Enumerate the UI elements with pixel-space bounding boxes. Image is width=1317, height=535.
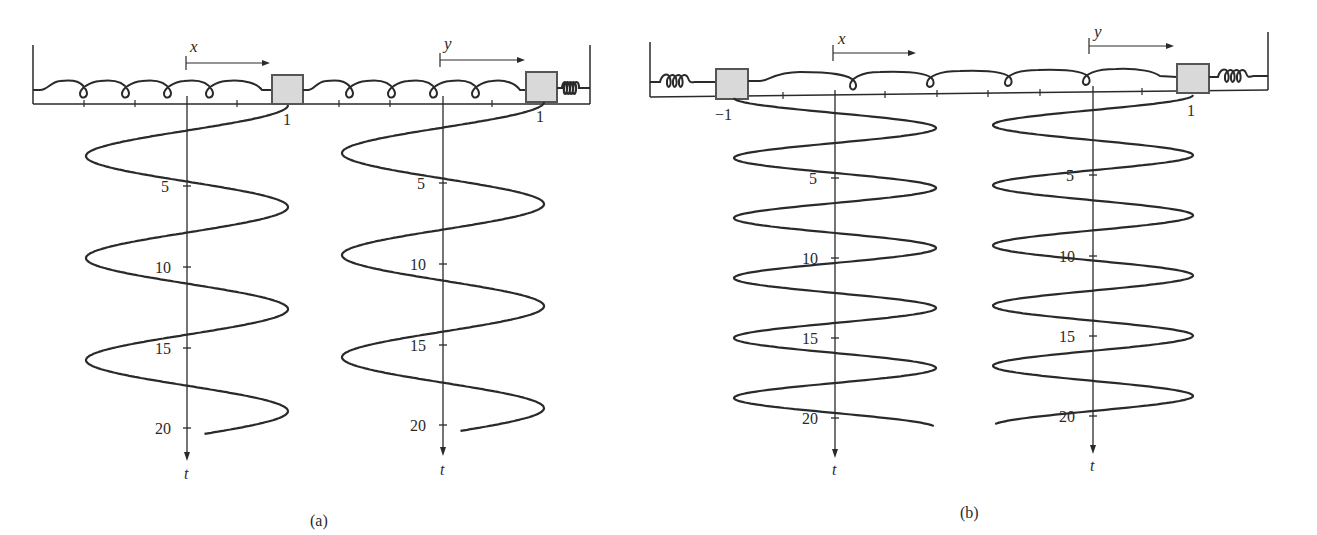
t-tick-5: 5 [809, 170, 817, 187]
t-axis-x-arrowhead [184, 452, 190, 461]
t-axis-y-arrowhead [1090, 445, 1096, 454]
mass2-position-label: 1 [536, 108, 544, 125]
t-tick-10: 10 [155, 259, 171, 276]
t-axis-x [183, 96, 191, 453]
y-arrowhead [1166, 43, 1174, 49]
t-tick-20: 20 [802, 410, 818, 427]
x-label: x [189, 37, 198, 56]
y-t-tick-5: 5 [417, 175, 425, 192]
panel-a-labels: x y 1 1 5 10 15 20 t 5 10 15 20 t (a) [155, 34, 544, 530]
y-t-label: t [1090, 457, 1095, 474]
y-t-tick-10: 10 [410, 256, 426, 273]
panel-b [650, 32, 1268, 458]
t-label: t [832, 461, 837, 478]
mass2-position-label: 1 [1187, 102, 1195, 119]
t-label: t [184, 465, 189, 482]
t-tick-10: 10 [802, 250, 818, 267]
y-t-tick-15: 15 [1059, 328, 1075, 345]
t-tick-5: 5 [161, 178, 169, 195]
mass-2 [526, 72, 557, 102]
x-label: x [837, 29, 846, 48]
mass-1 [272, 75, 303, 104]
left-spring [650, 75, 716, 87]
t-tick-20: 20 [155, 420, 171, 437]
mass1-position-label: 1 [283, 111, 291, 128]
left-spring [33, 80, 272, 97]
coupled-spring-mass-figure: x y 1 1 5 10 15 20 t 5 10 15 20 t (a) [0, 0, 1317, 535]
caption-a: (a) [310, 512, 328, 530]
y-t-label: t [440, 461, 445, 478]
y-t-tick-20: 20 [1059, 408, 1075, 425]
t-tick-15: 15 [802, 330, 818, 347]
y-indicator-line [440, 53, 517, 67]
y-t-tick-20: 20 [410, 417, 426, 434]
panel-b-labels: x y −1 1 5 10 15 20 t 5 10 15 20 t (b) [715, 22, 1195, 522]
t-axis-x-arrowhead [832, 449, 838, 458]
y-t-tick-10: 10 [1059, 248, 1075, 265]
x-arrowhead [908, 50, 916, 56]
y-t-tick-15: 15 [410, 337, 426, 354]
x-indicator-line [186, 56, 262, 70]
right-stiff-spring [557, 82, 590, 94]
mass1-position-label: −1 [715, 106, 732, 123]
x-arrowhead [262, 60, 270, 66]
panel-a [33, 45, 590, 461]
t-axis-y [439, 96, 447, 448]
mass-1 [716, 69, 748, 99]
mass-2 [1177, 64, 1209, 93]
y-label: y [442, 34, 452, 53]
t-tick-15: 15 [155, 340, 171, 357]
right-spring [1209, 70, 1268, 82]
y-t-tick-5: 5 [1066, 167, 1074, 184]
caption-b: (b) [960, 504, 979, 522]
coupling-spring [303, 80, 526, 97]
y-label: y [1092, 22, 1102, 41]
coupling-spring [748, 69, 1177, 90]
t-axis-y-arrowhead [440, 447, 446, 456]
y-arrowhead [517, 57, 525, 63]
